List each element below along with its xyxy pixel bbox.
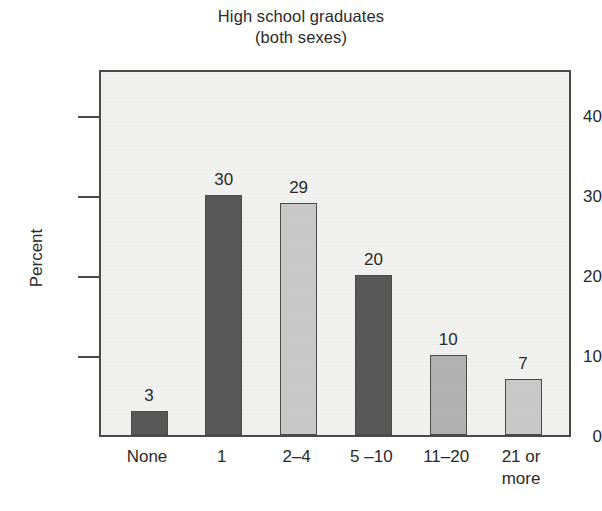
bar[interactable] (131, 411, 168, 435)
x-axis-tick-label: None (127, 446, 168, 468)
plot-area: 3302920107 (99, 70, 571, 437)
chart-title-block: High school graduates (both sexes) (0, 6, 602, 48)
y-axis-tick (78, 116, 99, 118)
bar-value-label: 10 (439, 330, 458, 350)
bar-value-label: 7 (518, 354, 527, 374)
y-axis-tick (78, 276, 99, 278)
x-axis-tick-label: 11–20 (423, 446, 469, 468)
bar-value-label: 29 (289, 178, 308, 198)
x-axis-tick-label: 21 or more (502, 446, 541, 489)
bar[interactable] (355, 275, 392, 435)
x-axis-tick-label: 5 –10 (350, 446, 393, 468)
bar-value-label: 30 (214, 170, 233, 190)
x-axis-tick-label: 1 (217, 446, 226, 468)
x-axis-tick-label: 2–4 (282, 446, 310, 468)
y-axis-label: Percent (27, 213, 47, 303)
y-axis-tick (78, 356, 99, 358)
bar[interactable] (205, 195, 242, 435)
bar[interactable] (505, 379, 542, 435)
page-title: High school graduates (0, 6, 602, 27)
chart-subtitle: (both sexes) (0, 27, 602, 48)
bar-value-label: 20 (364, 250, 383, 270)
bar[interactable] (430, 355, 467, 435)
bar[interactable] (280, 203, 317, 435)
bar-value-label: 3 (144, 386, 153, 406)
y-axis-tick (78, 196, 99, 198)
